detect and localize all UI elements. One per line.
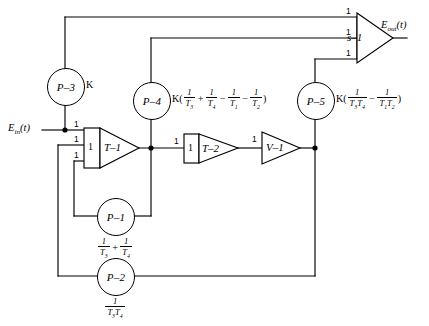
- junction-input-node: [62, 127, 67, 132]
- amplifier-v1-name: V–1: [266, 141, 284, 153]
- signal-input-arg: (t): [20, 122, 30, 133]
- junction-t1-output-node: [148, 145, 153, 150]
- gain-tag-summer-in3: 1: [346, 48, 351, 58]
- gain-tag-summer-in2: 1: [346, 27, 351, 37]
- gain-tag-summer-in1: 1: [346, 6, 351, 16]
- gain-tag-t1-in1: 1: [74, 119, 79, 129]
- potentiometer-p2-label: 1T3T4: [96, 297, 134, 319]
- signal-label-input: Ein(t): [8, 122, 30, 136]
- potentiometer-p5-label: K(1T3T4−1T1T2): [336, 88, 401, 110]
- gain-tag-v1-in1: 1: [252, 134, 257, 144]
- amplifier-t1-name: T–1: [104, 141, 121, 153]
- signal-output-subscript: out: [387, 25, 396, 33]
- potentiometer-p3[interactable]: P–3: [47, 68, 85, 106]
- wiring-layer: [0, 0, 429, 326]
- amplifier-t1-box-gain: 1: [88, 141, 93, 152]
- gain-tag-t1-in3: 1: [74, 150, 79, 160]
- potentiometer-p2-name: P–2: [107, 271, 126, 283]
- potentiometer-p5[interactable]: P–5: [297, 82, 335, 120]
- potentiometer-p1[interactable]: P–1: [97, 198, 135, 236]
- potentiometer-p3-name: P–3: [57, 81, 76, 93]
- gain-tag-t2-in1: 1: [174, 136, 179, 146]
- potentiometer-p1-label: 1T3+1T4: [97, 237, 133, 259]
- signal-label-output: Eout(t): [381, 19, 406, 33]
- potentiometer-p1-name: P–1: [107, 211, 126, 223]
- junction-v1-output-node: [312, 145, 317, 150]
- potentiometer-p4-label: K(1T3+1T4−1T1−1T2): [172, 88, 266, 110]
- amplifier-t2-name: T–2: [202, 142, 219, 154]
- signal-output-arg: (t): [397, 19, 407, 30]
- potentiometer-p3-label: K: [86, 79, 93, 90]
- potentiometer-p4-name: P–4: [143, 95, 162, 107]
- amplifier-t2-box-gain: 1: [188, 142, 193, 153]
- potentiometer-p4[interactable]: P–4: [133, 82, 171, 120]
- potentiometer-p5-name: P–5: [307, 95, 326, 107]
- potentiometer-p2[interactable]: P–2: [97, 258, 135, 296]
- gain-tag-t1-in2: 1: [74, 134, 79, 144]
- diagram-canvas: P–3 P–4 P–5 P–1 P–2 K K(1T3+1T4−1T1−1T2)…: [0, 0, 429, 326]
